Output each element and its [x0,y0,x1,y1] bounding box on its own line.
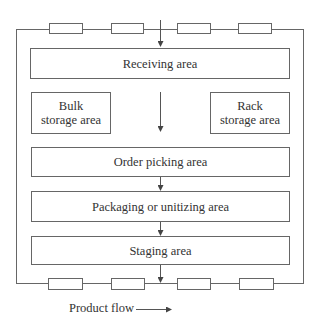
legend-label: Product flow [69,301,134,316]
legend-label-text: Product flow [69,301,134,315]
flow-arrows [0,0,319,330]
